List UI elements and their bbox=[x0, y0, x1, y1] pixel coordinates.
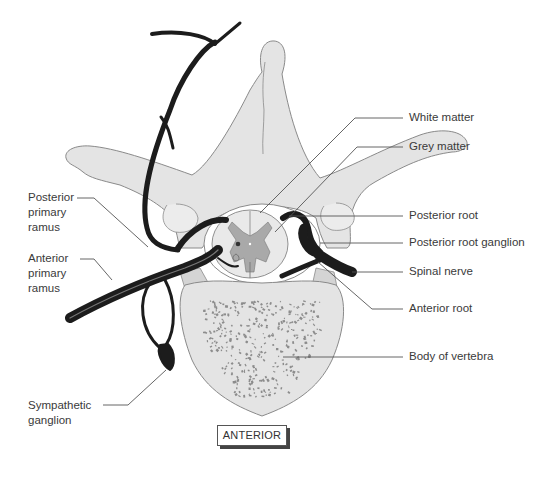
label-anterior-root: Anterior root bbox=[409, 301, 472, 316]
label-posterior-root: Posterior root bbox=[409, 208, 478, 223]
label-line: Anterior bbox=[28, 251, 68, 266]
leader-sympathetic-ganglion bbox=[103, 370, 166, 405]
label-line: primary bbox=[28, 266, 68, 281]
right-facet bbox=[321, 203, 355, 230]
ramus-branch-top-right bbox=[215, 23, 240, 44]
label-line: ganglion bbox=[28, 413, 91, 428]
label-line: Sympathetic bbox=[28, 398, 91, 413]
label-body-of-vertebra: Body of vertebra bbox=[409, 349, 493, 364]
label-line: ramus bbox=[28, 220, 74, 235]
rami-communicantes bbox=[143, 280, 174, 348]
label-grey-matter: Grey matter bbox=[409, 139, 470, 154]
ramus-branch-top-left bbox=[152, 33, 215, 44]
leader-posterior-primary-ramus bbox=[77, 198, 148, 247]
label-posterior-root-ganglion: Posterior root ganglion bbox=[409, 235, 525, 250]
neuron-cell-body bbox=[236, 242, 241, 247]
label-sympathetic-ganglion: Sympathetic ganglion bbox=[28, 398, 91, 428]
label-line: Posterior bbox=[28, 190, 74, 205]
label-white-matter: White matter bbox=[409, 110, 474, 125]
label-line: ramus bbox=[28, 281, 68, 296]
label-line: primary bbox=[28, 205, 74, 220]
label-anterior-primary-ramus: Anterior primary ramus bbox=[28, 251, 68, 296]
orientation-label-anterior: ANTERIOR bbox=[217, 425, 287, 446]
sympathetic-ganglion-shape bbox=[159, 344, 174, 370]
leader-anterior-primary-ramus bbox=[80, 259, 112, 280]
label-spinal-nerve: Spinal nerve bbox=[409, 264, 473, 279]
central-canal bbox=[249, 243, 251, 245]
vertebral-body bbox=[180, 268, 344, 416]
label-posterior-primary-ramus: Posterior primary ramus bbox=[28, 190, 74, 235]
